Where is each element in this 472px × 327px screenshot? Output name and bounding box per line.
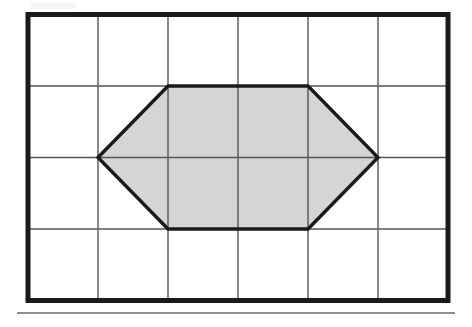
figure-stage: Shaded hexagon on a rectangular grid <box>0 0 472 327</box>
grid-hexagon-figure: Shaded hexagon on a rectangular grid <box>0 0 472 327</box>
